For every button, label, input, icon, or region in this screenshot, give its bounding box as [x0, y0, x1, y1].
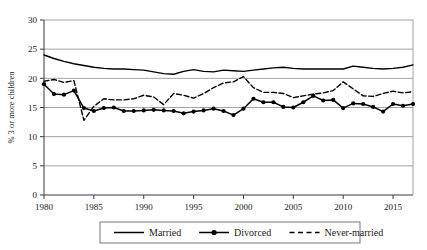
series-line-married [44, 55, 413, 74]
legend-label-never-married[interactable]: Never-married [325, 227, 384, 238]
series-marker-divorced [122, 109, 126, 113]
series-marker-divorced [211, 107, 215, 111]
y-tick-label: 25 [28, 44, 38, 54]
series-marker-divorced [341, 106, 345, 110]
series-marker-divorced [351, 101, 355, 105]
data-series [42, 55, 415, 120]
y-tick-label: 0 [33, 190, 38, 200]
series-marker-divorced [331, 98, 335, 102]
series-marker-divorced [82, 106, 86, 110]
y-tick-label: 30 [28, 15, 38, 25]
series-marker-divorced [271, 100, 275, 104]
series-marker-divorced [132, 109, 136, 113]
series-marker-divorced [301, 100, 305, 104]
legend-label-divorced[interactable]: Divorced [234, 227, 271, 238]
x-axis-ticks: 19801985199019952000200520102015 [35, 195, 403, 212]
y-axis-title-text: % 3 or more children [6, 71, 16, 144]
series-marker-divorced [152, 108, 156, 112]
series-marker-divorced [182, 111, 186, 115]
x-tick-label: 2015 [384, 202, 403, 212]
x-tick-label: 1990 [135, 202, 154, 212]
series-marker-divorced [381, 109, 385, 113]
series-marker-divorced [401, 104, 405, 108]
series-marker-divorced [172, 109, 176, 113]
series-marker-divorced [371, 105, 375, 109]
y-tick-label: 15 [28, 103, 38, 113]
x-tick-label: 1995 [185, 202, 204, 212]
chart-container: 051015202530 198019851990199520002005201… [0, 0, 427, 250]
series-marker-divorced [191, 109, 195, 113]
x-tick-label: 1985 [85, 202, 104, 212]
legend-marker-divorced [212, 230, 217, 235]
series-marker-divorced [142, 108, 146, 112]
y-tick-label: 5 [33, 161, 38, 171]
series-marker-divorced [251, 97, 255, 101]
series-marker-divorced [102, 106, 106, 110]
x-tick-label: 2005 [284, 202, 303, 212]
x-tick-label: 2000 [234, 202, 253, 212]
x-tick-label: 1980 [35, 202, 54, 212]
series-marker-divorced [42, 82, 46, 86]
series-marker-divorced [291, 105, 295, 109]
series-marker-divorced [201, 108, 205, 112]
series-marker-divorced [112, 105, 116, 109]
series-marker-divorced [391, 102, 395, 106]
y-tick-label: 20 [28, 74, 38, 84]
series-marker-divorced [231, 113, 235, 117]
series-marker-divorced [361, 102, 365, 106]
x-tick-label: 2010 [334, 202, 353, 212]
series-marker-divorced [321, 98, 325, 102]
chart-legend[interactable]: MarriedDivorcedNever-married [100, 222, 383, 243]
y-tick-label: 10 [28, 132, 38, 142]
gridlines [44, 20, 413, 166]
series-line-divorced [44, 84, 413, 115]
series-marker-divorced [162, 108, 166, 112]
y-axis-ticks: 051015202530 [28, 15, 44, 200]
series-marker-divorced [281, 105, 285, 109]
series-marker-divorced [411, 102, 415, 106]
series-marker-divorced [52, 92, 56, 96]
series-marker-divorced [62, 93, 66, 97]
series-marker-divorced [261, 100, 265, 104]
legend-label-married[interactable]: Married [149, 227, 181, 238]
y-axis-title: % 3 or more children [6, 71, 16, 144]
series-marker-divorced [221, 109, 225, 113]
series-marker-divorced [241, 107, 245, 111]
line-chart: 051015202530 198019851990199520002005201… [0, 0, 427, 250]
